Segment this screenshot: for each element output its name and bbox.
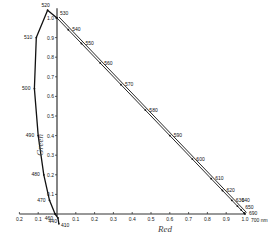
wavelength-marker — [120, 84, 122, 86]
x-tick-label: 0.2 — [91, 216, 98, 222]
wavelength-marker — [237, 205, 239, 207]
wavelength-marker — [47, 9, 49, 11]
wavelength-label: 540 — [72, 26, 81, 32]
wavelength-label: 510 — [24, 34, 33, 40]
y-tick-label: 0.7 — [47, 74, 54, 80]
wavelength-label: 550 — [85, 40, 94, 46]
wavelength-marker — [99, 62, 101, 64]
wavelength-labels: 4104404604704804905005105205305405505605… — [22, 2, 268, 228]
wavelength-marker — [58, 223, 60, 225]
wavelength-label: 530 — [60, 10, 69, 16]
wavelength-marker — [54, 213, 56, 215]
wavelength-marker — [231, 199, 233, 201]
wavelength-marker — [57, 217, 59, 219]
x-tick-label: 1.0 — [242, 216, 249, 222]
wavelength-marker — [49, 199, 51, 201]
x-tick-label: 0.5 — [148, 216, 155, 222]
y-tick-label: 1.0 — [47, 15, 54, 21]
wavelength-marker — [169, 135, 171, 137]
wavelength-marker — [67, 29, 69, 31]
wavelength-label: 490 — [26, 132, 35, 138]
wavelength-label: 640 — [241, 197, 250, 203]
x-tick-label: 0.7 — [185, 216, 192, 222]
x-tick-label: 0.6 — [166, 216, 173, 222]
wavelength-label: 700 nm — [251, 217, 268, 223]
x-tick-label: 0.9 — [223, 216, 230, 222]
wavelength-label: 460 — [45, 215, 54, 221]
wavelength-marker — [222, 190, 224, 192]
wavelength-label: 560 — [104, 60, 113, 66]
y-tick-label: 0.3 — [47, 152, 54, 158]
chromaticity-diagram: 0.20.10.10.20.30.40.50.60.70.80.91.00.10… — [0, 0, 279, 249]
wavelength-marker — [34, 88, 36, 90]
y-tick-label: 0.9 — [47, 35, 54, 41]
x-tick-label: 0.3 — [110, 216, 117, 222]
x-tick-label: 0.1 — [35, 216, 42, 222]
y-tick-label: 0.6 — [47, 93, 54, 99]
wavelength-marker — [81, 43, 83, 45]
wavelength-label: 480 — [31, 171, 40, 177]
x-tick-label: 0.4 — [129, 216, 136, 222]
wavelength-label: 470 — [37, 197, 46, 203]
wavelength-marker — [35, 37, 37, 39]
wavelength-marker — [191, 158, 193, 160]
wavelength-label: 500 — [22, 85, 31, 91]
axes: 0.20.10.10.20.30.40.50.60.70.80.91.00.10… — [16, 8, 249, 222]
spectral-locus — [34, 10, 246, 224]
wavelength-marker — [43, 174, 45, 176]
wavelength-label: 570 — [125, 81, 134, 87]
x-tick-label: 0.8 — [204, 216, 211, 222]
y-axis-title: Green — [35, 133, 45, 156]
wavelength-label: 690 — [249, 210, 258, 216]
wavelength-marker — [144, 109, 146, 111]
x-tick-label: 0.1 — [72, 216, 79, 222]
wavelength-label: 520 — [41, 2, 50, 8]
locus-diagonal-inner — [57, 18, 245, 214]
x-tick-label: 0.2 — [16, 216, 23, 222]
wavelength-marker — [244, 213, 246, 215]
wavelength-label: 610 — [215, 175, 224, 181]
wavelength-label: 590 — [174, 132, 183, 138]
wavelength-marker — [210, 178, 212, 180]
y-tick-label: 0.2 — [47, 172, 54, 178]
x-axis-title: Red — [157, 224, 172, 234]
wavelength-label: 600 — [196, 156, 205, 162]
y-tick-label: 0.4 — [47, 133, 54, 139]
y-tick-label: 0.8 — [47, 54, 54, 60]
wavelength-label: 620 — [226, 187, 235, 193]
locus-diagonal-outer — [59, 17, 247, 213]
wavelength-marker — [240, 209, 242, 211]
wavelength-marker — [56, 17, 58, 19]
wavelength-label: 410 — [61, 222, 70, 228]
wavelength-label: 580 — [149, 107, 158, 113]
y-tick-label: 0.5 — [47, 113, 54, 119]
